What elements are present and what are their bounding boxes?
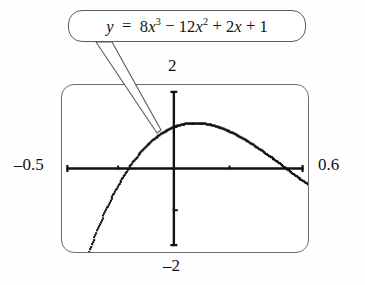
equation-term-1-exponent: 2 <box>203 16 208 27</box>
equation-lhs: y <box>106 16 114 35</box>
equation-term-2-variable: x <box>234 16 242 35</box>
window-xmin-label: –0.5 <box>14 155 44 175</box>
calculator-screen <box>61 84 309 253</box>
window-ymin-label: –2 <box>163 256 180 276</box>
equation-text: y = 8x3−12x2+2x+1 <box>106 16 268 37</box>
equation-callout: y = 8x3−12x2+2x+1 <box>68 10 306 42</box>
equation-term-0-coefficient: 8 <box>140 16 148 35</box>
equation-term-0-variable: x <box>148 16 156 35</box>
figure-container: y = 8x3−12x2+2x+1 2 –2 –0.5 0.6 <box>0 0 365 285</box>
curve-0 <box>88 123 308 252</box>
equation-term-1-sign: − <box>165 16 175 35</box>
window-xmax-label: 0.6 <box>318 155 339 175</box>
equation-equals: = <box>122 16 132 35</box>
equation-term-1-variable: x <box>196 16 204 35</box>
equation-term-3-coefficient: 1 <box>259 16 267 35</box>
equation-term-3-sign: + <box>246 16 256 35</box>
window-ymax-label: 2 <box>168 56 177 76</box>
equation-term-0-exponent: 3 <box>156 16 161 27</box>
equation-term-2-sign: + <box>212 16 222 35</box>
plot-canvas <box>62 85 308 252</box>
equation-term-1-coefficient: 12 <box>179 16 196 35</box>
